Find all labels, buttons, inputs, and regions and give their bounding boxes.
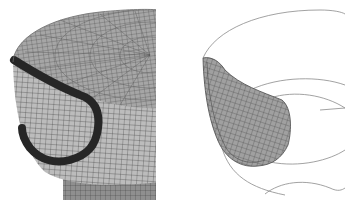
cylinder-mesh-diagram bbox=[0, 0, 178, 205]
isolated-region-diagram bbox=[178, 0, 355, 205]
right-mesh-panel bbox=[178, 0, 355, 205]
isolated-mesh-region bbox=[203, 58, 290, 167]
left-mesh-panel bbox=[0, 0, 178, 205]
